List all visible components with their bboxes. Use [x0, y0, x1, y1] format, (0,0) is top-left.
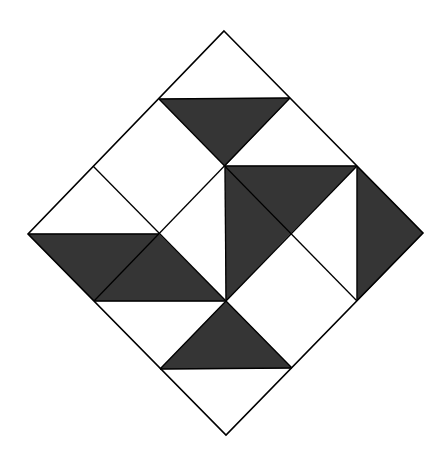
- right-triangle: [357, 166, 423, 301]
- bottom-triangle: [160, 301, 292, 369]
- quilt-diagram: [0, 0, 447, 462]
- top-triangle: [159, 98, 290, 166]
- grid-lines-group: [28, 98, 357, 369]
